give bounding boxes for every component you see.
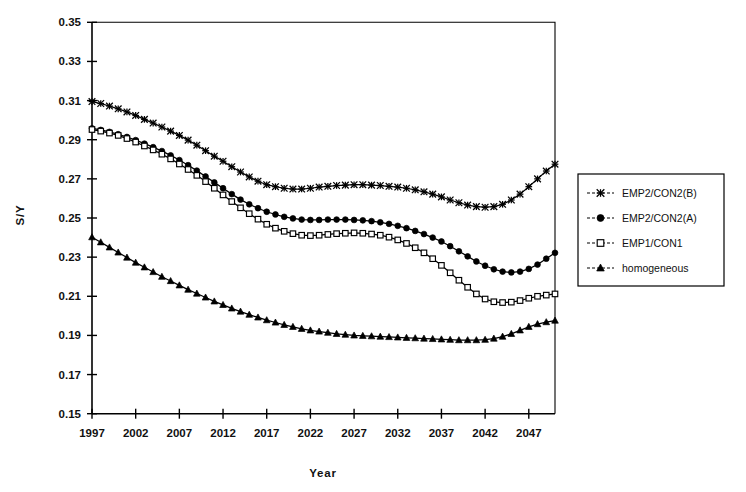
circle-marker: [500, 269, 506, 275]
circle-marker: [264, 209, 270, 215]
square-marker: [159, 151, 165, 157]
cross-marker: [115, 105, 122, 112]
circle-marker: [255, 205, 261, 211]
circle-marker: [281, 214, 287, 220]
cross-marker: [351, 181, 358, 188]
square-marker: [412, 245, 418, 251]
square-marker: [544, 292, 550, 298]
y-tick-label: 0.23: [59, 251, 81, 263]
line-chart: 0.150.170.190.210.230.250.270.290.310.33…: [0, 0, 746, 492]
square-marker: [133, 139, 139, 145]
y-tick-label: 0.19: [59, 329, 81, 341]
square-marker: [238, 205, 244, 211]
cross-marker: [193, 142, 200, 149]
y-tick-label: 0.27: [59, 173, 81, 185]
cross-marker: [272, 183, 279, 190]
circle-marker: [535, 262, 541, 268]
square-marker: [439, 263, 445, 269]
circle-marker: [430, 235, 436, 241]
cross-marker: [517, 191, 524, 198]
circle-marker: [246, 201, 252, 207]
circle-marker: [220, 185, 226, 191]
y-tick-label: 0.15: [59, 408, 82, 420]
cross-marker: [377, 182, 384, 189]
legend-item-label: EMP1/CON1: [622, 237, 683, 249]
circle-marker: [325, 217, 331, 223]
circle-marker: [308, 217, 314, 223]
cross-marker: [508, 197, 515, 204]
square-marker: [369, 231, 375, 237]
cross-marker: [124, 109, 131, 116]
cross-marker: [525, 183, 532, 190]
cross-marker: [421, 188, 428, 195]
square-marker: [378, 232, 384, 238]
cross-marker: [159, 124, 166, 131]
circle-marker: [360, 217, 366, 223]
square-marker: [316, 232, 322, 238]
circle-marker: [369, 218, 375, 224]
square-marker: [474, 291, 480, 297]
cross-marker: [464, 202, 471, 209]
cross-marker: [246, 174, 253, 181]
circle-marker: [473, 259, 479, 265]
cross-marker: [211, 153, 218, 160]
x-tick-label: 2027: [341, 427, 367, 439]
cross-marker: [89, 98, 96, 105]
circle-marker: [395, 223, 401, 229]
square-marker: [517, 298, 523, 304]
circle-marker: [211, 179, 217, 185]
square-marker: [168, 156, 174, 162]
square-marker: [404, 241, 410, 247]
square-marker: [395, 237, 401, 243]
circle-marker: [386, 221, 392, 227]
x-axis-title: Year: [309, 467, 337, 479]
circle-marker: [238, 197, 244, 203]
cross-marker: [368, 182, 375, 189]
cross-marker: [359, 181, 366, 188]
square-marker: [465, 285, 471, 291]
x-tick-label: 2007: [167, 427, 193, 439]
square-marker: [447, 270, 453, 276]
square-marker: [220, 192, 226, 198]
cross-marker: [534, 176, 541, 183]
legend-item-label: EMP2/CON2(A): [622, 212, 697, 224]
square-marker: [194, 173, 200, 179]
square-marker: [509, 299, 515, 305]
circle-marker: [552, 250, 558, 256]
circle-marker: [229, 191, 235, 197]
cross-marker: [342, 182, 349, 189]
square-marker: [89, 127, 95, 133]
circle-marker: [351, 217, 357, 223]
cross-marker: [333, 182, 340, 189]
square-marker: [430, 256, 436, 262]
square-marker: [360, 231, 366, 237]
x-tick-label: 2022: [298, 427, 324, 439]
square-marker: [526, 295, 532, 301]
square-marker: [456, 277, 462, 283]
square-marker: [212, 186, 218, 192]
x-tick-label: 2032: [385, 427, 411, 439]
circle-marker: [543, 256, 549, 262]
y-tick-label: 0.17: [59, 369, 81, 381]
square-marker: [491, 299, 497, 305]
cross-marker: [552, 161, 559, 168]
circle-marker: [465, 253, 471, 259]
circle-marker: [597, 215, 604, 222]
cross-marker: [263, 181, 270, 188]
cross-marker: [543, 168, 550, 175]
cross-marker: [298, 186, 305, 193]
x-tick-label: 1997: [79, 427, 105, 439]
circle-marker: [439, 239, 445, 245]
square-marker: [290, 231, 296, 237]
circle-marker: [482, 263, 488, 269]
square-marker: [535, 294, 541, 300]
y-tick-label: 0.33: [59, 55, 81, 67]
square-marker: [325, 232, 331, 238]
cross-marker: [228, 163, 235, 170]
y-axis-title: S/Y: [14, 205, 26, 226]
y-tick-label: 0.35: [59, 16, 82, 28]
circle-marker: [299, 217, 305, 223]
circle-marker: [273, 212, 279, 218]
square-marker: [142, 143, 148, 149]
square-marker: [255, 216, 261, 222]
